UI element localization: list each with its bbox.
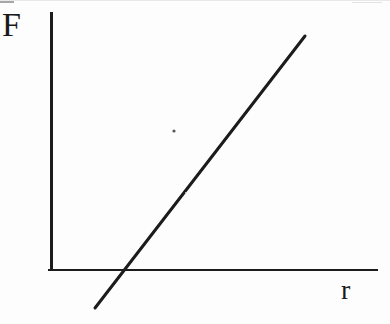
stray-speck-mark xyxy=(172,129,175,132)
data-line-F-of-r xyxy=(95,36,305,308)
figure-canvas: F r xyxy=(0,0,390,324)
x-axis-label: r xyxy=(341,276,350,304)
plot-area xyxy=(0,0,390,324)
y-axis-label: F xyxy=(2,8,21,42)
